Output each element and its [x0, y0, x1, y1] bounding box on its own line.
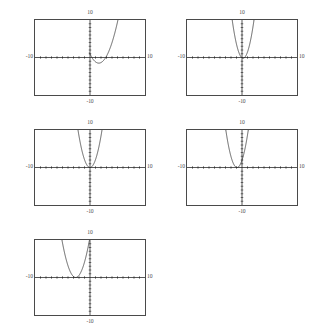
plot-4-xmin-label: -10 [174, 164, 185, 170]
plot-1-xmax-label: 10 [147, 54, 163, 60]
plot-5-ymin-label: -10 [34, 319, 146, 325]
plot-2-xmax-label: 10 [299, 54, 315, 60]
plot-4-ymin-label: -10 [186, 209, 298, 215]
plot-5-viewport [34, 239, 146, 316]
plot-3-ymax-label: 10 [34, 120, 146, 126]
plot-5-xmax-label: 10 [147, 274, 163, 280]
plot-4-xmax-label: 10 [299, 164, 315, 170]
plot-2-xmin-label: -10 [174, 54, 185, 60]
plot-2-viewport [186, 19, 298, 96]
plot-2: 10-10-1010 [174, 8, 321, 112]
plot-2-parabola-curve [232, 20, 254, 58]
plot-1-parabola-curve [89, 20, 117, 63]
plot-5-ymax-label: 10 [34, 230, 146, 236]
plot-2-ymax-label: 10 [186, 10, 298, 16]
plot-5: 10-10-1010 [22, 228, 169, 332]
plot-4-ymax-label: 10 [186, 120, 298, 126]
plot-1-ymin-label: -10 [34, 99, 146, 105]
plot-5-parabola-curve [62, 240, 89, 277]
plot-3-viewport [34, 129, 146, 206]
plot-4-parabola-curve [226, 130, 248, 167]
plot-3: 10-10-1010 [22, 118, 169, 222]
plot-2-ymin-label: -10 [186, 99, 298, 105]
plot-3-xmin-label: -10 [22, 164, 33, 170]
plot-1-ymax-label: 10 [34, 10, 146, 16]
plot-5-xmin-label: -10 [22, 274, 33, 280]
plot-4-viewport [186, 129, 298, 206]
plot-3-ymin-label: -10 [34, 209, 146, 215]
plot-3-xmax-label: 10 [147, 164, 163, 170]
plot-1: 10-10-1010 [22, 8, 169, 112]
plot-1-viewport [34, 19, 146, 96]
plot-grid: 10-10-101010-10-101010-10-101010-10-1010… [0, 0, 321, 333]
plot-4: 10-10-1010 [174, 118, 321, 222]
plot-1-xmin-label: -10 [22, 54, 33, 60]
